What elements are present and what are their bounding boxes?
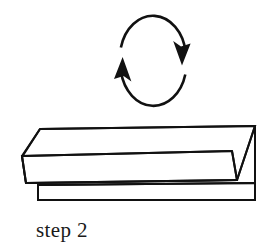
diagram-canvas [0,0,267,252]
step-caption: step 2 [36,219,236,242]
origami-step-figure: step 2 [0,0,267,252]
folded-paper-model [22,126,255,200]
